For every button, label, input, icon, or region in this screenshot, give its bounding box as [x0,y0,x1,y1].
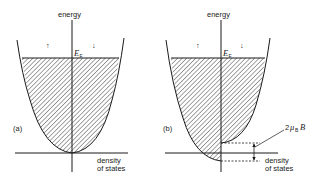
splitting-label-mu: μ [289,122,294,132]
fermi-subscript-a: F [80,53,83,59]
splitting-label-field: B [300,122,305,132]
splitting-double-arrow [252,144,255,161]
filled-states-b-down [221,58,265,143]
energy-label-b: energy [207,10,230,19]
spin-down-arrow-b: ↓ [240,41,244,50]
pauli-paramagnetism-diagram: energy E F ↑ ↓ (a) density of states [0,0,326,179]
spin-up-arrow-a: ↑ [46,41,50,50]
splitting-leader-line [255,130,284,147]
energy-label-a: energy [58,10,81,19]
spin-down-arrow-a: ↓ [92,41,96,50]
panel-b: energy E F ↑ ↓ (b) 2 μ B B density of st… [163,10,305,173]
panel-label-b: (b) [163,124,173,133]
panel-a: energy E F ↑ ↓ (a) density of states [13,10,128,173]
splitting-label-mu-sub: B [295,127,299,133]
spin-up-arrow-b: ↑ [196,41,200,50]
panel-label-a: (a) [13,124,23,133]
filled-states-a [22,58,119,153]
dos-label-b-line2: of states [265,164,294,173]
fermi-subscript-b: F [229,53,232,59]
splitting-label-two: 2 [285,123,289,132]
dos-label-a-line2: of states [97,164,126,173]
